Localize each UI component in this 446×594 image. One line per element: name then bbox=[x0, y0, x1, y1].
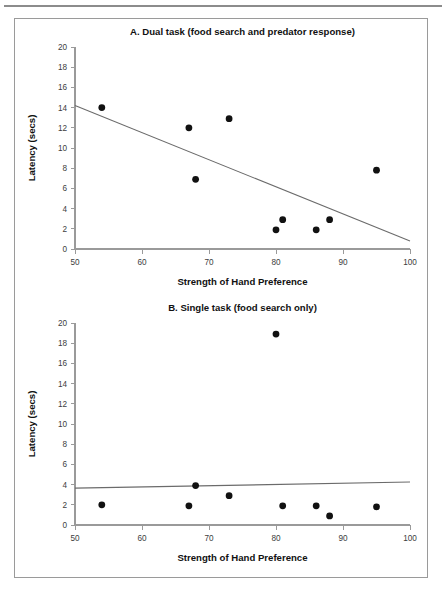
y-tick-label: 6 bbox=[62, 460, 67, 469]
y-tick-label: 8 bbox=[62, 440, 67, 449]
data-point: Strength of Hand Preference: 68, Latency… bbox=[192, 176, 199, 183]
data-point: Strength of Hand Preference: 73, Latency… bbox=[226, 492, 233, 499]
data-point: Strength of Hand Preference: 73, Latency… bbox=[226, 115, 233, 122]
chart-panel-b: B. Single task (food search only)0246810… bbox=[15, 301, 429, 577]
data-point: Strength of Hand Preference: 67, Latency… bbox=[186, 124, 193, 131]
chart-title-b: B. Single task (food search only) bbox=[168, 302, 317, 313]
x-tick-label: 80 bbox=[271, 534, 281, 543]
x-tick-label: 50 bbox=[70, 534, 80, 543]
y-tick-label: 18 bbox=[58, 339, 68, 348]
scatter-chart-a: A. Dual task (food search and predator r… bbox=[15, 21, 429, 301]
chart-title-a: A. Dual task (food search and predator r… bbox=[130, 26, 355, 37]
x-tick-label: 60 bbox=[137, 258, 147, 267]
data-point: Strength of Hand Preference: 67, Latency… bbox=[186, 502, 193, 509]
y-tick-label: 8 bbox=[62, 164, 67, 173]
x-tick-label: 80 bbox=[271, 258, 281, 267]
data-point: Strength of Hand Preference: 86, Latency… bbox=[313, 226, 320, 233]
y-tick-label: 4 bbox=[62, 205, 67, 214]
trend-line-b bbox=[75, 482, 410, 488]
x-tick-label: 70 bbox=[204, 258, 214, 267]
y-tick-label: 12 bbox=[58, 400, 68, 409]
y-tick-label: 18 bbox=[58, 63, 68, 72]
x-tick-label: 100 bbox=[403, 534, 417, 543]
data-point: Strength of Hand Preference: 88, Latency… bbox=[326, 216, 333, 223]
y-axis-title-a: Latency (secs) bbox=[26, 115, 37, 182]
x-tick-label: 60 bbox=[137, 534, 147, 543]
data-point: Strength of Hand Preference: 88, Latency… bbox=[326, 513, 333, 520]
x-axis-title-b: Strength of Hand Preference bbox=[177, 552, 307, 563]
y-tick-label: 14 bbox=[58, 380, 68, 389]
data-point: Strength of Hand Preference: 54, Latency… bbox=[98, 501, 105, 508]
data-point: Strength of Hand Preference: 86, Latency… bbox=[313, 502, 320, 509]
y-tick-label: 2 bbox=[62, 501, 67, 510]
x-tick-label: 100 bbox=[403, 258, 417, 267]
y-tick-label: 0 bbox=[62, 245, 67, 254]
figure-root: A. Dual task (food search and predator r… bbox=[0, 0, 446, 594]
y-tick-label: 6 bbox=[62, 184, 67, 193]
chart-panel-a: A. Dual task (food search and predator r… bbox=[15, 21, 429, 301]
data-point: Strength of Hand Preference: 95, Latency… bbox=[373, 167, 380, 174]
x-tick-label: 90 bbox=[338, 258, 348, 267]
y-tick-label: 16 bbox=[58, 83, 68, 92]
y-tick-label: 2 bbox=[62, 225, 67, 234]
x-tick-label: 50 bbox=[70, 258, 80, 267]
y-tick-label: 10 bbox=[58, 420, 68, 429]
data-point: Strength of Hand Preference: 54, Latency… bbox=[98, 104, 105, 111]
y-axis-title-b: Latency (secs) bbox=[26, 391, 37, 458]
scatter-chart-b: B. Single task (food search only)0246810… bbox=[15, 301, 429, 577]
data-point: Strength of Hand Preference: 80, Latency… bbox=[273, 331, 280, 338]
x-tick-label: 70 bbox=[204, 534, 214, 543]
data-point: Strength of Hand Preference: 81, Latency… bbox=[279, 216, 286, 223]
x-tick-label: 90 bbox=[338, 534, 348, 543]
data-point: Strength of Hand Preference: 68, Latency… bbox=[192, 482, 199, 489]
data-point: Strength of Hand Preference: 81, Latency… bbox=[279, 502, 286, 509]
y-tick-label: 0 bbox=[62, 521, 67, 530]
y-tick-label: 20 bbox=[58, 319, 68, 328]
y-tick-label: 12 bbox=[58, 124, 68, 133]
x-axis-title-a: Strength of Hand Preference bbox=[177, 276, 307, 287]
page-top-rule bbox=[4, 5, 442, 7]
data-point: Strength of Hand Preference: 80, Latency… bbox=[273, 226, 280, 233]
data-point: Strength of Hand Preference: 95, Latency… bbox=[373, 503, 380, 510]
y-tick-label: 20 bbox=[58, 43, 68, 52]
y-tick-label: 10 bbox=[58, 144, 68, 153]
trend-line-a bbox=[75, 106, 410, 241]
y-tick-label: 4 bbox=[62, 481, 67, 490]
y-tick-label: 16 bbox=[58, 359, 68, 368]
figure-frame: A. Dual task (food search and predator r… bbox=[14, 18, 428, 578]
y-tick-label: 14 bbox=[58, 104, 68, 113]
